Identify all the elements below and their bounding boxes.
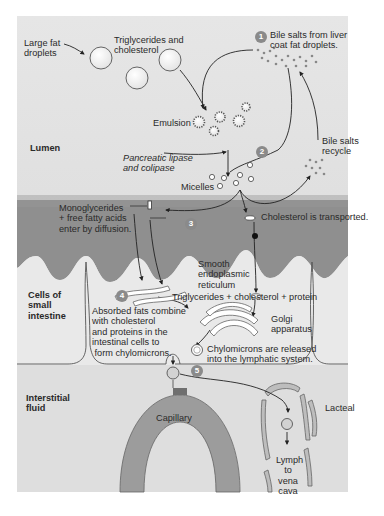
step-4-text: Absorbed fats combine with cholesterol a… (92, 306, 186, 358)
label-capillary: Capillary (156, 413, 192, 423)
label-bile-salts-recycle: Bile salts recycle (322, 136, 359, 157)
chylomicron (192, 345, 203, 356)
region-label-cells: Cells of small intestine (28, 290, 66, 321)
label-lacteal: Lacteal (325, 403, 355, 413)
label-pancreatic-lipase: Pancreatic lipase and colipase (123, 153, 193, 174)
label-micelles: Micelles (181, 182, 214, 192)
step-badge-4: 4 (116, 290, 128, 302)
fat-droplet (90, 47, 112, 69)
transporter (252, 233, 258, 239)
fat-digestion-diagram: Large fat droplets Triglycerides and cho… (0, 0, 384, 516)
step-badge-5: 5 (191, 365, 203, 377)
cholesterol-molecule (245, 216, 255, 220)
label-emulsion: Emulsion (153, 118, 191, 128)
label-chylomicrons-released: Chylomicrons are released into the lymph… (207, 344, 316, 365)
chylomicron-in-lymph (282, 419, 293, 430)
label-smooth-er: Smooth endoplasmic reticulum (198, 259, 250, 290)
step-badge-1: 1 (255, 31, 267, 43)
step-badge-3: 3 (185, 218, 197, 230)
label-cholesterol-transported: Cholesterol is transported. (261, 212, 368, 222)
label-golgi: Golgi apparatus (271, 314, 312, 335)
label-tg-chol-protein: Triglycerides + cholesterol + protein (172, 292, 317, 302)
region-label-interstitial: Interstitial fluid (26, 393, 70, 414)
step-1-text: Bile salts from liver coat fat droplets. (270, 30, 347, 51)
label-lymph: Lymph to vena cava (276, 455, 300, 497)
chylomicron-released (167, 367, 179, 379)
label-large-fat-droplets: Large fat droplets (24, 38, 60, 59)
label-monoglycerides: Monoglycerides + free fatty acids enter … (59, 203, 131, 234)
diagram-artwork (0, 0, 384, 516)
fat-droplet (126, 67, 148, 89)
label-triglycerides-cholesterol: Triglycerides and cholesterol (114, 35, 184, 56)
region-label-lumen: Lumen (30, 143, 60, 153)
capillary-pore (173, 388, 187, 395)
step-badge-2: 2 (256, 146, 268, 158)
